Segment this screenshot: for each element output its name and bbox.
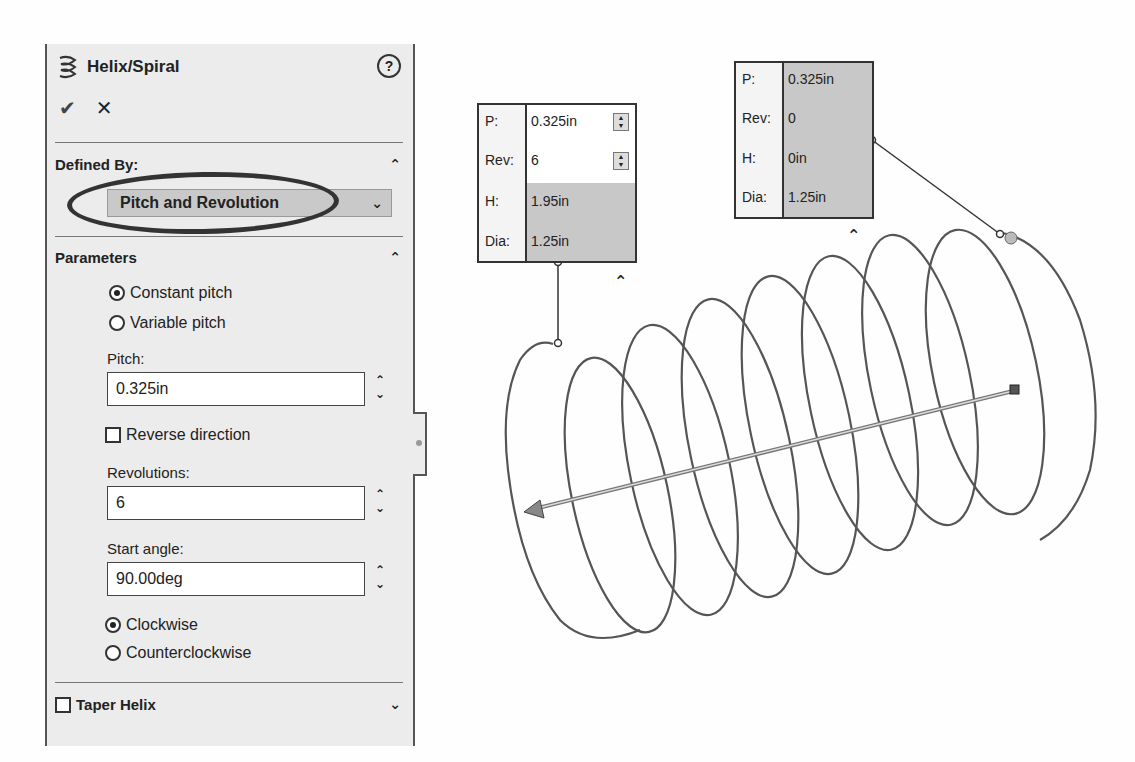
rev-key: Rev:: [485, 152, 514, 168]
pitch-value: 0.325in: [788, 71, 834, 87]
height-value: 0in: [788, 150, 807, 166]
helix-end-point: [997, 231, 1004, 238]
helix-start-point: [555, 340, 562, 347]
rev-value: 0: [788, 110, 796, 126]
callout-end-collapse-icon[interactable]: ⌃: [847, 226, 860, 245]
pitch-key: P:: [485, 113, 498, 129]
height-value: 1.95in: [531, 193, 569, 209]
diameter-value: 1.25in: [531, 233, 569, 249]
pitch-value-input[interactable]: 0.325in: [531, 113, 577, 129]
height-key: H:: [742, 150, 756, 166]
pitch-spinner[interactable]: ▲▼: [613, 113, 629, 131]
axis-end-handle: [1010, 385, 1019, 394]
helix-curve: [506, 219, 1096, 642]
callout-start: P: 0.325in ▲▼ Rev: 6 ▲▼ H: 1.95in Dia: 1…: [477, 103, 637, 263]
height-key: H:: [485, 193, 499, 209]
diameter-key: Dia:: [742, 189, 767, 205]
arrow-head-icon: [524, 500, 544, 518]
rev-key: Rev:: [742, 110, 771, 126]
drag-handle: [1005, 232, 1017, 244]
rev-value-input[interactable]: 6: [531, 152, 539, 168]
rev-spinner[interactable]: ▲▼: [613, 152, 629, 170]
callout-end: P: 0.325in Rev: 0 H: 0in Dia: 1.25in: [734, 61, 874, 219]
diameter-key: Dia:: [485, 233, 510, 249]
callout-start-collapse-icon[interactable]: ⌃: [614, 272, 627, 291]
pitch-key: P:: [742, 71, 755, 87]
diameter-value: 1.25in: [788, 189, 826, 205]
axis-arrow: [524, 385, 1019, 518]
